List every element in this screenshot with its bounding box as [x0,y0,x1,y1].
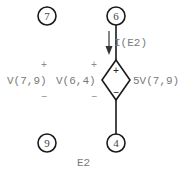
v79-label: V(7,9) [7,75,47,87]
element-name: E2 [77,157,90,169]
node-7[interactable]: 7 [38,7,56,25]
circuit-diagram: I(E2) + − 5V(7,9) 7 6 9 4 + V(7,9) − + V… [0,0,188,175]
node-9[interactable]: 9 [38,134,56,152]
source-plus-sign: + [113,66,119,77]
node-9-label: 9 [44,137,50,149]
v79-plus-sign: + [41,60,47,71]
node-4-label: 4 [113,137,119,149]
current-arrow-icon [106,31,113,55]
node-7-label: 7 [44,10,50,22]
current-label: I(E2) [114,37,147,49]
v79-minus-sign: − [41,92,47,103]
node-4[interactable]: 4 [107,134,125,152]
source-expression: 5V(7,9) [133,75,179,87]
v64-label: V(6,4) [56,75,96,87]
v64-minus-sign: − [91,92,97,103]
v64-plus-sign: + [91,60,97,71]
node-6-label: 6 [113,10,119,22]
source-minus-sign: − [113,88,119,99]
node-6[interactable]: 6 [107,7,125,25]
